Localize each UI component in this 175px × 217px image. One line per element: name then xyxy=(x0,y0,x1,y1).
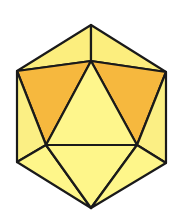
icosahedron-faces xyxy=(17,25,166,208)
icosahedron-diagram xyxy=(0,0,175,217)
